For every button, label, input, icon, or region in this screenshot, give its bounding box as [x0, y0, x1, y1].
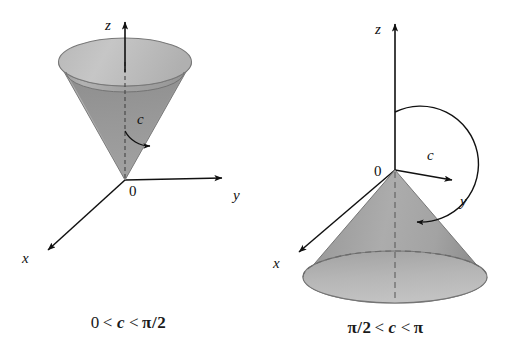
y-axis-label: y [231, 187, 240, 203]
caption-right: π/2<c<π [257, 318, 514, 338]
origin-label: 0 [129, 183, 137, 199]
cone-downward-diagram: x y z 0 c [257, 0, 514, 315]
y-axis-line [125, 178, 222, 180]
figure-panel-left: x y z 0 c 0<c<π/2 [0, 0, 257, 362]
x-axis-line [48, 180, 125, 250]
angle-label-c: c [427, 147, 434, 163]
cone-upward-diagram: x y z 0 c [0, 0, 257, 310]
caption-right-rel-1: < [371, 318, 387, 337]
y-axis-line [395, 170, 452, 180]
z-axis-label: z [374, 21, 381, 37]
origin-label: 0 [374, 163, 382, 179]
caption-left-rel-1: < [100, 313, 116, 332]
caption-left-variable: c [116, 313, 126, 332]
caption-left-upper: π/2 [142, 313, 166, 332]
caption-left-lower: 0 [91, 313, 100, 332]
caption-right-lower: π/2 [347, 318, 371, 337]
z-axis-label: z [104, 17, 111, 33]
caption-left: 0<c<π/2 [0, 313, 257, 333]
caption-right-upper: π [414, 318, 424, 337]
caption-right-variable: c [388, 318, 398, 337]
angle-label-c: c [137, 111, 144, 127]
caption-left-rel-2: < [126, 313, 142, 332]
x-axis-label: x [21, 250, 29, 266]
figure-panel-right: x y z 0 c π/2<c<π [257, 0, 514, 362]
figure-root: x y z 0 c 0<c<π/2 [0, 0, 514, 362]
x-axis-label: x [272, 255, 280, 271]
caption-right-rel-2: < [398, 318, 414, 337]
